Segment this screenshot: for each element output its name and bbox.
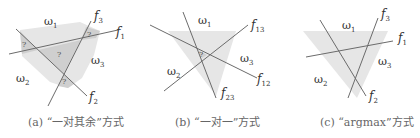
region-omega2: ω2 [167,65,180,80]
region-omega1: ω1 [198,14,211,29]
label-f1: f1 [397,31,407,47]
label-f3: f3 [380,7,390,23]
panel-a: ω1 ω2 ω3 f1 f2 f3 ? ? ? ? (a) “一对其余”方式 [9,9,125,129]
figure: ω1 ω2 ω3 f1 f2 f3 ? ? ? ? (a) “一对其余”方式 ω… [0,0,420,138]
panel-b-shade [168,31,236,96]
ambiguous-mark: ? [199,50,203,59]
panel-b: ω1 ω2 ω3 f13 f12 f23 ? (b) “一对一”方式 [150,12,270,129]
label-f23: f23 [220,86,234,102]
region-omega2: ω2 [16,72,29,87]
region-omega3: ω3 [91,54,104,69]
region-omega2: ω2 [314,73,327,88]
label-f12: f12 [256,72,270,88]
label-f1: f1 [115,25,125,41]
panel-c: ω1 ω2 ω3 f1 f2 f3 (c) “argmax”方式 [303,7,414,129]
region-omega3: ω3 [240,52,253,67]
ambiguous-mark: ? [22,40,26,49]
label-f2: f2 [368,89,378,105]
label-f13: f13 [250,18,264,34]
ambiguous-mark: ? [62,77,66,86]
caption-a: (a) “一对其余”方式 [28,115,124,129]
label-f2: f2 [88,90,98,106]
caption-c: (c) “argmax”方式 [320,115,414,129]
label-f3: f3 [93,9,103,25]
ambiguous-mark: ? [87,30,91,39]
panel-c-shade [303,31,388,98]
region-omega1: ω1 [342,19,355,34]
ambiguous-mark: ? [57,50,61,59]
region-omega3: ω3 [378,55,391,70]
region-omega1: ω1 [44,15,57,30]
caption-b: (b) “一对一”方式 [175,115,260,129]
